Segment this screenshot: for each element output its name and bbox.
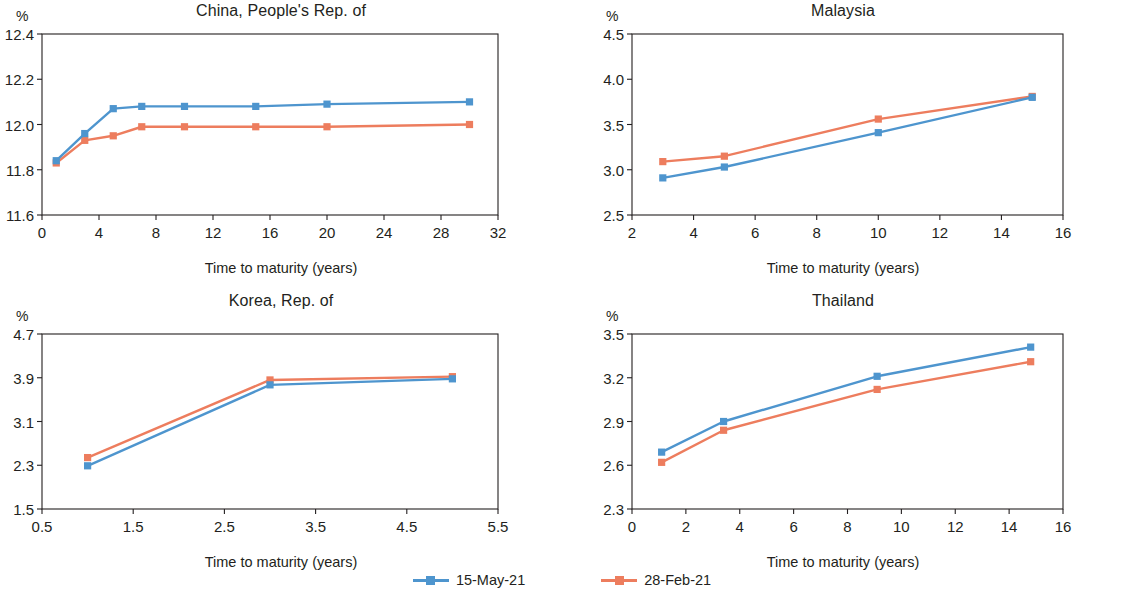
series-line-previous <box>663 96 1032 161</box>
series-line-previous <box>662 362 1031 463</box>
legend-square-marker-icon <box>426 576 435 585</box>
data-point-marker <box>659 158 666 165</box>
data-point-marker <box>110 105 117 112</box>
plot-area-china <box>0 0 562 290</box>
series-line-previous <box>88 377 453 458</box>
plot-area-thailand <box>562 290 1124 580</box>
data-point-marker <box>266 381 273 388</box>
data-point-marker <box>721 153 728 160</box>
data-point-marker <box>81 137 88 144</box>
data-point-marker <box>720 427 727 434</box>
data-point-marker <box>720 418 727 425</box>
plot-frame <box>42 334 498 509</box>
legend-swatch-icon <box>413 573 449 587</box>
legend-swatch-icon <box>601 573 637 587</box>
data-point-marker <box>138 123 145 130</box>
data-point-marker <box>874 373 881 380</box>
data-point-marker <box>84 454 91 461</box>
data-point-marker <box>53 157 60 164</box>
data-point-marker <box>466 98 473 105</box>
data-point-marker <box>1027 344 1034 351</box>
data-point-marker <box>81 130 88 137</box>
data-point-marker <box>721 163 728 170</box>
plot-area-korea <box>0 290 562 580</box>
data-point-marker <box>658 449 665 456</box>
yield-curve-figure: China, People's Rep. of%Time to maturity… <box>0 0 1124 600</box>
data-point-marker <box>110 132 117 139</box>
series-line-current <box>56 102 469 161</box>
series-line-current <box>662 347 1031 452</box>
legend-square-marker-icon <box>615 576 624 585</box>
chart-legend: 15-May-2128-Feb-21 <box>0 572 1124 588</box>
legend-label: 15-May-21 <box>456 572 525 588</box>
data-point-marker <box>181 123 188 130</box>
series-line-previous <box>56 125 469 163</box>
data-point-marker <box>466 121 473 128</box>
legend-label: 28-Feb-21 <box>644 572 711 588</box>
data-point-marker <box>874 386 881 393</box>
data-point-marker <box>323 101 330 108</box>
chart-panel-malaysia: Malaysia%Time to maturity (years)2.53.03… <box>562 0 1124 290</box>
data-point-marker <box>875 129 882 136</box>
chart-panel-china: China, People's Rep. of%Time to maturity… <box>0 0 562 290</box>
plot-frame <box>632 34 1063 215</box>
plot-area-malaysia <box>562 0 1124 290</box>
data-point-marker <box>658 459 665 466</box>
legend-entry: 28-Feb-21 <box>601 572 711 588</box>
data-point-marker <box>252 123 259 130</box>
data-point-marker <box>875 115 882 122</box>
data-point-marker <box>1027 358 1034 365</box>
data-point-marker <box>252 103 259 110</box>
data-point-marker <box>138 103 145 110</box>
chart-panel-thailand: Thailand%Time to maturity (years)2.32.62… <box>562 290 1124 580</box>
data-point-marker <box>181 103 188 110</box>
series-line-current <box>88 379 453 466</box>
data-point-marker <box>659 174 666 181</box>
legend-entry: 15-May-21 <box>413 572 525 588</box>
data-point-marker <box>323 123 330 130</box>
plot-frame <box>632 334 1063 509</box>
chart-panel-korea: Korea, Rep. of%Time to maturity (years)1… <box>0 290 562 580</box>
data-point-marker <box>1029 94 1036 101</box>
data-point-marker <box>449 375 456 382</box>
data-point-marker <box>84 462 91 469</box>
series-line-current <box>663 97 1032 178</box>
